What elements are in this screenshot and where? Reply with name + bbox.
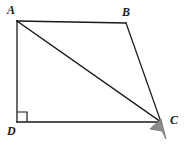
right-angle-marker-icon (17, 112, 27, 122)
vertex-label-b: B (122, 6, 130, 18)
vertex-label-c: C (170, 114, 178, 126)
vertex-label-d: D (7, 125, 16, 137)
vertex-label-a: A (7, 4, 15, 16)
edge-ab (17, 21, 126, 23)
edge-bc (126, 23, 161, 122)
diagonal-ac (17, 21, 161, 122)
geometry-figure: A B C D (0, 0, 189, 154)
figure-canvas (0, 0, 189, 154)
